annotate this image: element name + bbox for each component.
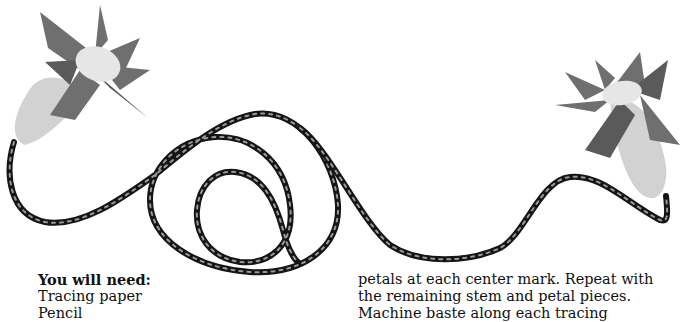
instruction-line: Machine baste along each tracing	[358, 305, 653, 322]
instructions-text: petals at each center mark. Repeat with …	[358, 271, 653, 322]
materials-item: Tracing paper	[38, 288, 151, 305]
braided-rope	[10, 114, 667, 273]
materials-list: You will need: Tracing paper Pencil	[38, 271, 151, 322]
materials-heading: You will need:	[38, 271, 151, 288]
instruction-line: petals at each center mark. Repeat with	[358, 271, 653, 288]
materials-item: Pencil	[38, 305, 151, 322]
left-flower-puppet	[15, 5, 150, 145]
instruction-line: the remaining stem and petal pieces.	[358, 288, 653, 305]
